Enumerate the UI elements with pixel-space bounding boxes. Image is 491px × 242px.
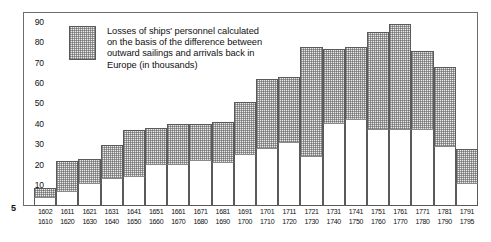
- bar: [167, 124, 189, 206]
- bar-segment-losses: [367, 32, 389, 130]
- bar: [101, 145, 123, 206]
- x-tick-label: 17011710: [256, 207, 278, 226]
- bar-segment-arrivals: [234, 155, 256, 206]
- bar-segment-arrivals: [367, 130, 389, 206]
- page-number: 5: [11, 203, 16, 213]
- bar-segment-losses: [300, 47, 322, 157]
- bar-segment-losses: [56, 161, 78, 192]
- x-tick-label: 17411750: [345, 207, 367, 226]
- bar-segment-arrivals: [456, 184, 478, 206]
- x-tick-label: 16911700: [234, 207, 256, 226]
- bar-segment-losses: [212, 122, 234, 163]
- x-tick-label: 16411650: [123, 207, 145, 226]
- bar-segment-losses: [123, 130, 145, 177]
- x-tick-label: 17311740: [323, 207, 345, 226]
- bar: [345, 47, 367, 206]
- bar-segment-losses: [167, 124, 189, 165]
- bar-segment-losses: [278, 77, 300, 142]
- x-tick-label: 16711680: [189, 207, 211, 226]
- x-tick-label: 16211630: [78, 207, 100, 226]
- bar-segment-arrivals: [278, 143, 300, 206]
- bar-segment-arrivals: [389, 130, 411, 206]
- x-tick-label: 16311640: [101, 207, 123, 226]
- x-tick-label: 17111720: [278, 207, 300, 226]
- bar-segment-losses: [189, 124, 211, 161]
- bar: [78, 159, 100, 206]
- bar: [278, 77, 300, 206]
- bar: [234, 102, 256, 206]
- bar: [189, 124, 211, 206]
- bar: [411, 51, 433, 206]
- bar-segment-arrivals: [256, 149, 278, 206]
- bar-segment-arrivals: [167, 165, 189, 206]
- x-tick-label: 17611770: [389, 207, 411, 226]
- bar: [300, 47, 322, 206]
- bar: [145, 128, 167, 206]
- x-tick-label: 17211730: [300, 207, 322, 226]
- bar-segment-losses: [145, 128, 167, 165]
- bar: [212, 122, 234, 206]
- bar-segment-losses: [34, 188, 56, 198]
- x-tick-label: 16111620: [56, 207, 78, 226]
- bar-segment-losses: [411, 51, 433, 131]
- bar-segment-losses: [456, 149, 478, 184]
- chart-legend: Losses of ships' personnel calculated on…: [69, 26, 262, 71]
- bar-segment-arrivals: [123, 177, 145, 206]
- bar: [389, 24, 411, 206]
- legend-label: Losses of ships' personnel calculated on…: [107, 26, 262, 71]
- x-tick-label: 17811790: [434, 207, 456, 226]
- bar-segment-arrivals: [434, 147, 456, 206]
- x-axis: 1602161016111620162116301631164016411650…: [34, 207, 478, 231]
- bar: [434, 67, 456, 206]
- bar: [256, 79, 278, 206]
- bar-segment-losses: [256, 79, 278, 148]
- bar-segment-arrivals: [145, 165, 167, 206]
- x-tick-label: 17911795: [456, 207, 478, 226]
- bar-segment-arrivals: [189, 161, 211, 206]
- x-tick-label: 16021610: [34, 207, 56, 226]
- bar-segment-losses: [101, 145, 123, 180]
- bar: [34, 188, 56, 206]
- bar-segment-arrivals: [300, 157, 322, 206]
- bar-segment-arrivals: [345, 120, 367, 206]
- bar: [367, 32, 389, 206]
- bar-segment-arrivals: [411, 130, 433, 206]
- bar-segment-arrivals: [101, 179, 123, 206]
- bar-segment-arrivals: [56, 192, 78, 206]
- bar-segment-losses: [78, 159, 100, 184]
- bar: [123, 130, 145, 206]
- bar-segment-arrivals: [34, 198, 56, 206]
- bar: [456, 149, 478, 206]
- bar-segment-arrivals: [78, 184, 100, 206]
- bar-segment-arrivals: [212, 163, 234, 206]
- bar-segment-losses: [434, 67, 456, 147]
- x-tick-label: 16811690: [212, 207, 234, 226]
- losses-swatch-icon: [69, 26, 96, 60]
- x-tick-label: 16511660: [145, 207, 167, 226]
- bar-segment-losses: [389, 24, 411, 130]
- figure-container: 102030405060708090 160216101611162016211…: [0, 0, 491, 242]
- x-tick-label: 17711780: [411, 207, 433, 226]
- bar-segment-losses: [234, 102, 256, 155]
- bar-segment-losses: [345, 47, 367, 121]
- bar: [56, 161, 78, 206]
- bar-segment-arrivals: [323, 124, 345, 206]
- bar: [323, 49, 345, 206]
- bar-segment-losses: [323, 49, 345, 125]
- x-tick-label: 16611670: [167, 207, 189, 226]
- x-tick-label: 17511760: [367, 207, 389, 226]
